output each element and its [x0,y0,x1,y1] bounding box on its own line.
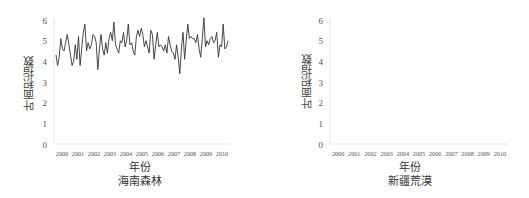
x-tick-label: 2009 [478,150,490,157]
x-tick-label: 2005 [413,150,425,157]
y-tick-label: 3 [319,78,324,88]
x-tick-label: 2003 [104,150,116,157]
x-tick-label: 2003 [380,150,392,157]
x-tick-label: 2007 [168,150,180,157]
x-tick-label: 2010 [494,150,506,157]
chart-panel-xinjiang-desert: 0123456200020012002200320042005200620072… [264,0,529,198]
chart-title: 海南森林 [100,172,180,188]
y-tick-label: 3 [43,78,48,88]
x-tick-label: 2000 [332,150,344,157]
x-tick-label: 2006 [429,150,441,157]
x-tick-label: 2006 [152,150,164,157]
data-series-line [56,18,228,74]
y-tick-label: 6 [319,16,324,26]
y-tick-label: 2 [43,98,48,108]
y-tick-label: 4 [43,57,48,67]
x-tick-label: 2009 [200,150,212,157]
x-tick-label: 2005 [136,150,148,157]
y-tick-label: 2 [319,98,324,108]
chart-panel-hainan-forest: 0123456200020012002200320042005200620072… [0,0,264,198]
y-tick-label: 5 [43,36,48,46]
x-tick-label: 2001 [72,150,84,157]
y-tick-label: 1 [319,119,324,129]
y-tick-label: 0 [319,140,324,150]
y-tick-label: 5 [319,36,324,46]
y-axis-label: 叶面积指数 [300,54,316,109]
x-tick-label: 2010 [216,150,228,157]
x-tick-label: 2001 [348,150,360,157]
x-tick-label: 2004 [397,150,409,157]
x-tick-label: 2008 [184,150,196,157]
x-tick-label: 2002 [88,150,100,157]
y-tick-label: 1 [43,119,48,129]
y-axis-label: 叶面积指数 [22,56,38,111]
x-tick-label: 2004 [120,150,132,157]
x-tick-label: 2008 [461,150,473,157]
x-tick-label: 2000 [56,150,68,157]
y-tick-label: 4 [319,57,324,67]
x-tick-label: 2002 [364,150,376,157]
x-tick-label: 2007 [445,150,457,157]
y-tick-label: 0 [43,140,48,150]
chart-title: 新疆荒漠 [370,172,450,188]
y-tick-label: 6 [43,16,48,26]
